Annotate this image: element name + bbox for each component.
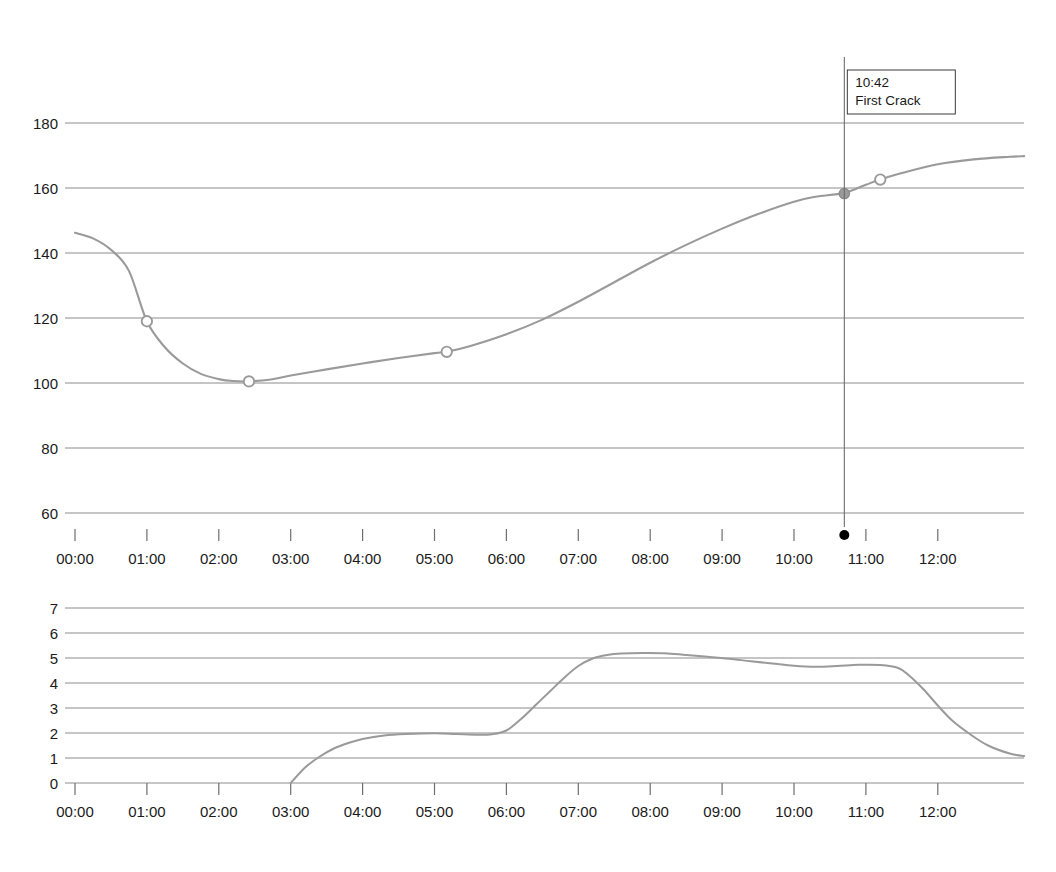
y-tick-label-7: 7	[50, 600, 58, 617]
rate-of-rise-plot: 01234567 00:0001:0002:0003:0004:0005:000…	[0, 580, 1056, 872]
turning-point-marker[interactable]	[244, 376, 254, 386]
bean-temperature-curve	[75, 156, 1024, 381]
x-tick-label-06:00: 06:00	[488, 550, 526, 567]
x-tick-label-12:00: 12:00	[919, 550, 957, 567]
y-tick-label-2: 2	[50, 725, 58, 742]
mid-marker[interactable]	[442, 347, 452, 357]
x-tick-label-11:00: 11:00	[848, 550, 884, 567]
y-tick-label-6: 6	[50, 625, 58, 642]
x-tick-label-11:00: 11:00	[848, 803, 884, 820]
x-tick-label-03:00: 03:00	[272, 550, 310, 567]
x-tick-label-05:00: 05:00	[416, 550, 454, 567]
x-tick-label-05:00: 05:00	[416, 803, 454, 820]
x-tick-label-10:00: 10:00	[775, 550, 813, 567]
post-crack-marker[interactable]	[875, 174, 885, 184]
roast-profile-chart-page: 6080100120140160180 00:0001:0002:0003:00…	[0, 0, 1056, 872]
x-tick-label-12:00: 12:00	[919, 803, 957, 820]
y-tick-label-160: 160	[33, 180, 58, 197]
x-tick-label-09:00: 09:00	[703, 550, 741, 567]
x-tick-label-09:00: 09:00	[703, 803, 741, 820]
first-crack-annotation-group[interactable]: 10:42First Crack	[839, 57, 955, 540]
x-tick-label-07:00: 07:00	[560, 803, 598, 820]
bean-temperature-line	[75, 156, 1024, 381]
y-tick-label-120: 120	[33, 310, 58, 327]
x-tick-label-08:00: 08:00	[631, 550, 669, 567]
x-tick-label-10:00: 10:00	[775, 803, 813, 820]
temperature-y-tick-labels: 6080100120140160180	[33, 115, 58, 522]
y-tick-label-1: 1	[50, 750, 58, 767]
bean-temperature-markers[interactable]	[142, 174, 886, 386]
x-tick-label-01:00: 01:00	[128, 550, 166, 567]
x-tick-label-08:00: 08:00	[631, 803, 669, 820]
rate-of-rise-y-tick-labels: 01234567	[50, 600, 58, 792]
bean-temperature-plot: 6080100120140160180 00:0001:0002:0003:00…	[0, 0, 1056, 580]
y-tick-label-80: 80	[41, 440, 58, 457]
x-tick-label-04:00: 04:00	[344, 803, 382, 820]
y-tick-label-100: 100	[33, 375, 58, 392]
temperature-x-tick-labels: 00:0001:0002:0003:0004:0005:0006:0007:00…	[56, 550, 956, 567]
y-tick-label-0: 0	[50, 775, 58, 792]
x-tick-label-00:00: 00:00	[56, 803, 94, 820]
rate-of-rise-curve	[291, 653, 1024, 783]
y-tick-label-140: 140	[33, 245, 58, 262]
x-tick-label-07:00: 07:00	[560, 550, 598, 567]
y-tick-label-3: 3	[50, 700, 58, 717]
x-tick-label-06:00: 06:00	[488, 803, 526, 820]
temperature-x-tick-marks	[75, 529, 938, 541]
dry-end-marker[interactable]	[142, 316, 152, 326]
y-tick-label-60: 60	[41, 505, 58, 522]
x-tick-label-02:00: 02:00	[200, 550, 238, 567]
y-tick-label-5: 5	[50, 650, 58, 667]
y-tick-label-180: 180	[33, 115, 58, 132]
bean-temperature-panel: 6080100120140160180 00:0001:0002:0003:00…	[0, 0, 1056, 580]
first-crack-time-label: 10:42	[855, 75, 889, 90]
x-tick-label-03:00: 03:00	[272, 803, 310, 820]
first-crack-axis-dot[interactable]	[839, 530, 849, 540]
rate-of-rise-panel: 01234567 00:0001:0002:0003:0004:0005:000…	[0, 580, 1056, 872]
first-crack-event-label: First Crack	[855, 93, 920, 108]
x-tick-label-01:00: 01:00	[128, 803, 166, 820]
x-tick-label-02:00: 02:00	[200, 803, 238, 820]
x-tick-label-04:00: 04:00	[344, 550, 382, 567]
rate-of-rise-x-tick-labels: 00:0001:0002:0003:0004:0005:0006:0007:00…	[56, 803, 956, 820]
y-tick-label-4: 4	[50, 675, 58, 692]
rate-of-rise-line	[291, 653, 1024, 783]
x-tick-label-00:00: 00:00	[56, 550, 94, 567]
rate-of-rise-x-tick-marks	[75, 783, 938, 795]
